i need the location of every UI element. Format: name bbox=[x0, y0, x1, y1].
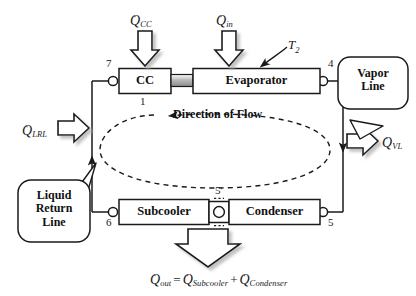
liquid-return-text-2: Return bbox=[36, 201, 73, 215]
component-label-subcooler: Subcooler bbox=[119, 205, 209, 218]
component-label-condenser: Condenser bbox=[229, 205, 320, 218]
node-label-1: 1 bbox=[140, 96, 146, 107]
node-5prime-block bbox=[209, 198, 229, 225]
vapor-line-text-2: Line bbox=[361, 79, 384, 93]
q-vl-dot: · bbox=[385, 132, 389, 144]
component-label-evaporator: Evaporator bbox=[193, 74, 320, 87]
node-marker-7 bbox=[108, 76, 117, 85]
q-lrl-dot: · bbox=[25, 120, 29, 132]
callout-liquid-return-line-text: Liquid Return Line bbox=[18, 189, 90, 229]
heat-flow-arrow-q-cc bbox=[131, 31, 159, 66]
pipe-liquid-return-line bbox=[92, 81, 116, 212]
node-label-7: 7 bbox=[106, 58, 112, 69]
equation-term1-subscript: Subcooler bbox=[193, 278, 228, 288]
loop-heat-pipe-diagram bbox=[0, 0, 416, 296]
heat-flow-label-q-vl: ·QVL bbox=[382, 133, 402, 151]
q-cc-dot: · bbox=[133, 10, 137, 22]
liquid-return-text-3: Line bbox=[42, 215, 65, 229]
equation-term2-subscript: Condenser bbox=[250, 278, 288, 288]
q-in-subscript: in bbox=[226, 19, 233, 29]
t2-leader-arrow bbox=[263, 47, 287, 65]
temperature-label-t2: T2 bbox=[288, 37, 299, 55]
node-label-4: 4 bbox=[328, 58, 334, 69]
node-label-5: 5 bbox=[328, 217, 334, 228]
heat-balance-equation: ·Qout=·QSubcooler+·QCondenser bbox=[150, 270, 287, 288]
vapor-line-text-1: Vapor bbox=[357, 66, 389, 80]
equation-equals: = bbox=[171, 272, 182, 287]
q-lrl-subscript: LRL bbox=[32, 129, 47, 139]
liquid-return-text-1: Liquid bbox=[37, 188, 72, 202]
t2-subscript: 2 bbox=[295, 45, 299, 55]
direction-of-flow-label: Direction of Flow bbox=[173, 108, 262, 120]
diagram-canvas: CC Evaporator Subcooler Condenser 7 1 4 … bbox=[0, 0, 416, 296]
q-vl-subscript: VL bbox=[392, 141, 402, 151]
node-label-6: 6 bbox=[106, 217, 112, 228]
node-label-5-prime: 5' bbox=[215, 185, 222, 196]
heat-flow-arrow-q-in bbox=[215, 31, 243, 66]
heat-flow-arrow-q-lrl bbox=[58, 114, 89, 142]
callout-vapor-line-text: Vapor Line bbox=[338, 67, 408, 94]
direction-of-flow-loop bbox=[100, 114, 330, 188]
equation-plus: + bbox=[228, 272, 239, 287]
heat-flow-label-q-lrl: ·QLRL bbox=[22, 121, 47, 139]
heat-flow-label-q-cc: ·QCC bbox=[130, 11, 152, 29]
q-in-dot: · bbox=[219, 10, 223, 22]
q-cc-subscript: CC bbox=[140, 19, 152, 29]
heat-flow-arrow-q-out bbox=[176, 229, 240, 267]
component-label-cc: CC bbox=[119, 74, 171, 87]
heat-flow-label-q-in: ·Qin bbox=[216, 11, 233, 29]
cc-evaporator-connector bbox=[171, 75, 193, 87]
equation-lhs-subscript: out bbox=[160, 278, 171, 288]
